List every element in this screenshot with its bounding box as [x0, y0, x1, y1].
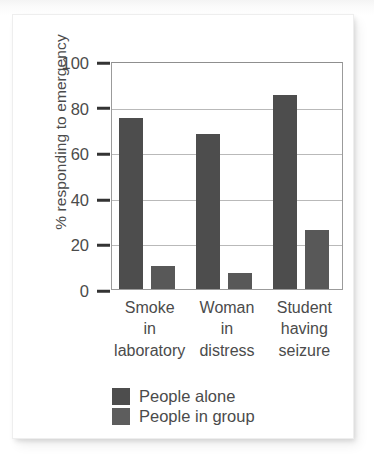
y-axis-tick-mark: [97, 153, 110, 156]
y-axis-tick-label: 60: [71, 146, 89, 163]
bar-people-alone: [196, 134, 220, 289]
plot-area: 020406080100: [111, 62, 343, 290]
legend-swatch: [112, 388, 130, 405]
bar-people-in-group: [151, 266, 175, 289]
y-axis-tick-mark: [97, 107, 110, 110]
legend-item: People alone: [112, 387, 288, 405]
y-axis-tick-mark: [97, 290, 110, 293]
gridline: [112, 154, 342, 155]
y-axis-tick-mark: [97, 62, 110, 65]
y-axis-tick-label: 100: [61, 55, 89, 72]
chart-legend: People alonePeople in group: [13, 387, 374, 425]
y-axis-tick: 60: [71, 146, 112, 163]
y-axis-tick: 20: [71, 237, 112, 254]
bar-people-alone: [119, 118, 143, 289]
x-axis-category-label-line: seizure: [266, 340, 343, 361]
y-axis-tick-label: 80: [71, 100, 89, 117]
x-axis-category-labels: SmokeinlaboratoryWomanindistressStudenth…: [111, 297, 343, 361]
figure-frame: % responding to emergency 020406080100 S…: [0, 0, 374, 463]
y-axis-tick-label: 0: [80, 283, 89, 300]
chart-plate: % responding to emergency 020406080100 S…: [13, 15, 353, 438]
gridline: [112, 109, 342, 110]
x-axis-category-label-line: in: [188, 318, 265, 339]
legend-swatch: [112, 408, 130, 425]
x-axis-category-label-line: Smoke: [111, 297, 188, 318]
x-axis-category-label-line: in: [111, 318, 188, 339]
bar-people-in-group: [228, 273, 252, 289]
x-axis-category-label-line: distress: [188, 340, 265, 361]
y-axis-tick: 100: [61, 55, 112, 72]
y-axis-tick: 0: [80, 283, 112, 300]
legend-item: People in group: [112, 407, 288, 425]
y-axis-tick-mark: [97, 244, 110, 247]
y-axis-title: % responding to emergency: [52, 12, 70, 252]
y-axis-tick-mark: [97, 198, 110, 201]
x-axis-category-label-line: having: [266, 318, 343, 339]
x-axis-category-label: Smokeinlaboratory: [111, 297, 188, 361]
x-axis-category-label: Studenthavingseizure: [266, 297, 343, 361]
legend-label: People in group: [139, 407, 255, 425]
y-axis-tick: 80: [71, 100, 112, 117]
legend-label: People alone: [139, 387, 235, 405]
x-axis-category-label-line: Student: [266, 297, 343, 318]
x-axis-category-label-line: laboratory: [111, 340, 188, 361]
y-axis-tick: 40: [71, 192, 112, 209]
x-axis-category-label-line: Woman: [188, 297, 265, 318]
bar-people-in-group: [305, 230, 329, 289]
gridline: [112, 200, 342, 201]
bar-people-alone: [273, 95, 297, 289]
y-axis-tick-label: 20: [71, 237, 89, 254]
x-axis-category-label: Womanindistress: [188, 297, 265, 361]
y-axis-tick-label: 40: [71, 192, 89, 209]
